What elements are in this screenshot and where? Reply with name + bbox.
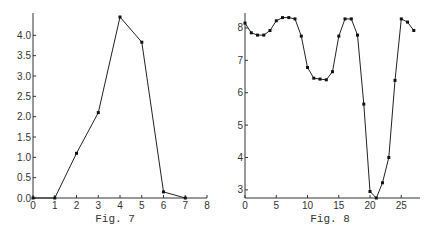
figure-caption: Fig. 8 xyxy=(310,213,350,225)
data-point xyxy=(119,16,122,19)
data-point xyxy=(269,29,272,32)
data-point xyxy=(300,35,303,38)
y-tick-label: 0.0 xyxy=(17,193,31,204)
y-tick-label: 4 xyxy=(237,152,243,163)
data-line xyxy=(245,18,414,198)
data-point xyxy=(362,103,365,106)
data-point xyxy=(331,70,334,73)
data-point xyxy=(53,197,56,200)
y-tick-label: 8 xyxy=(237,22,243,33)
data-point xyxy=(281,16,284,19)
data-point xyxy=(275,19,278,22)
data-point xyxy=(162,190,165,193)
data-point xyxy=(319,78,322,81)
data-point xyxy=(256,34,259,37)
data-point xyxy=(400,17,403,20)
data-point xyxy=(184,197,187,200)
fig8-chart: 0510152025345678Fig. 8 xyxy=(237,13,420,225)
x-tick-label: 15 xyxy=(333,200,345,211)
data-point xyxy=(406,21,409,24)
y-tick-label: 3.5 xyxy=(17,50,31,61)
data-point xyxy=(244,22,247,25)
x-tick-label: 0 xyxy=(242,200,248,211)
y-tick-label: 5 xyxy=(237,120,243,131)
data-point xyxy=(287,16,290,19)
x-tick-label: 1 xyxy=(52,200,58,211)
y-tick-label: 2.5 xyxy=(17,91,31,102)
data-point xyxy=(294,17,297,20)
data-point xyxy=(387,156,390,159)
y-tick-label: 1.5 xyxy=(17,132,31,143)
data-point xyxy=(344,17,347,20)
data-point xyxy=(350,17,353,20)
figure-caption: Fig. 7 xyxy=(95,213,135,225)
data-point xyxy=(375,197,378,200)
data-point xyxy=(250,31,253,34)
data-point xyxy=(140,41,143,44)
data-point xyxy=(312,77,315,80)
x-tick-label: 3 xyxy=(95,200,101,211)
data-line xyxy=(33,17,185,198)
x-tick-label: 25 xyxy=(396,200,408,211)
data-point xyxy=(412,29,415,32)
x-tick-label: 6 xyxy=(161,200,167,211)
data-point xyxy=(32,197,35,200)
figure-pair: 0123456780.00.51.01.52.02.53.03.54.0Fig.… xyxy=(0,0,437,232)
data-point xyxy=(306,66,309,69)
y-tick-label: 1.0 xyxy=(17,152,31,163)
x-tick-label: 0 xyxy=(30,200,36,211)
data-point xyxy=(394,79,397,82)
y-tick-label: 0.5 xyxy=(17,172,31,183)
data-point xyxy=(75,152,78,155)
y-tick-label: 2.0 xyxy=(17,111,31,122)
x-tick-label: 5 xyxy=(139,200,145,211)
x-tick-label: 7 xyxy=(182,200,188,211)
y-tick-label: 7 xyxy=(237,55,243,66)
x-tick-label: 8 xyxy=(204,200,210,211)
x-tick-label: 4 xyxy=(117,200,123,211)
data-point xyxy=(369,190,372,193)
x-tick-label: 10 xyxy=(302,200,314,211)
data-point xyxy=(356,34,359,37)
y-tick-label: 3 xyxy=(237,184,243,195)
data-point xyxy=(262,34,265,37)
x-tick-label: 5 xyxy=(273,200,279,211)
y-tick-label: 4.0 xyxy=(17,30,31,41)
data-point xyxy=(381,181,384,184)
data-point xyxy=(337,35,340,38)
fig7-chart: 0123456780.00.51.01.52.02.53.03.54.0Fig.… xyxy=(17,13,210,225)
y-tick-label: 6 xyxy=(237,87,243,98)
y-tick-label: 3.0 xyxy=(17,71,31,82)
data-point xyxy=(97,111,100,114)
data-point xyxy=(325,78,328,81)
x-tick-label: 2 xyxy=(74,200,80,211)
x-tick-label: 20 xyxy=(364,200,376,211)
